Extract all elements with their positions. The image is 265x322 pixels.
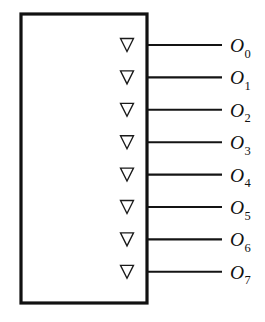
output-label-subscript: 6 [245,241,251,255]
output-label: O2 [230,100,251,126]
output-label-base: O [230,165,244,186]
output-label-subscript: 2 [245,111,251,125]
output-label: O1 [230,67,251,93]
output-label-subscript: 7 [245,273,251,287]
output-label-base: O [230,100,244,121]
output-label: O0 [230,35,251,61]
output-label-base: O [230,132,244,153]
output-label-base: O [230,197,244,218]
output-label-base: O [230,262,244,283]
output-label-subscript: 4 [245,176,252,190]
logic-block-diagram: O0O1O2O3O4O5O6O7 [0,0,265,322]
output-label: O3 [230,132,251,158]
output-label: O7 [230,262,251,288]
chip-body-rectangle [21,14,147,303]
diagram-canvas: O0O1O2O3O4O5O6O7 [0,0,265,322]
output-label-subscript: 0 [245,47,251,61]
output-label: O6 [230,229,251,255]
output-label-subscript: 3 [245,144,251,158]
output-label-base: O [230,229,244,250]
output-label: O5 [230,197,251,223]
output-label-subscript: 5 [245,209,251,223]
output-label-subscript: 1 [245,79,251,93]
output-label-base: O [230,35,244,56]
output-label: O4 [230,165,252,191]
output-label-base: O [230,67,244,88]
